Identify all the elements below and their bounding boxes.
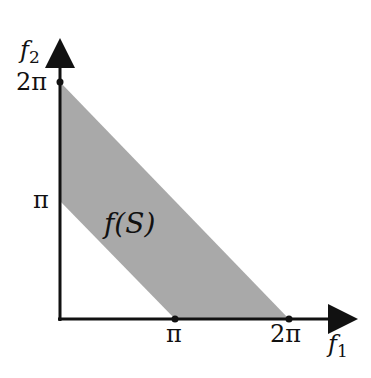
y-axis-label: f2 [18,36,40,67]
y-tick-2pi: 2π [16,68,47,96]
y-tick-pi: π [33,186,49,214]
x-axis-label: f1 [326,330,348,361]
diagram-canvas: f2 2π π π 2π f1 f(S) [0,0,371,378]
tick-dot-y-2pi [57,79,64,86]
x-tick-pi: π [166,320,182,348]
x-tick-2pi: 2π [270,320,301,348]
feasible-region [60,82,289,319]
region-label: f(S) [102,207,155,240]
